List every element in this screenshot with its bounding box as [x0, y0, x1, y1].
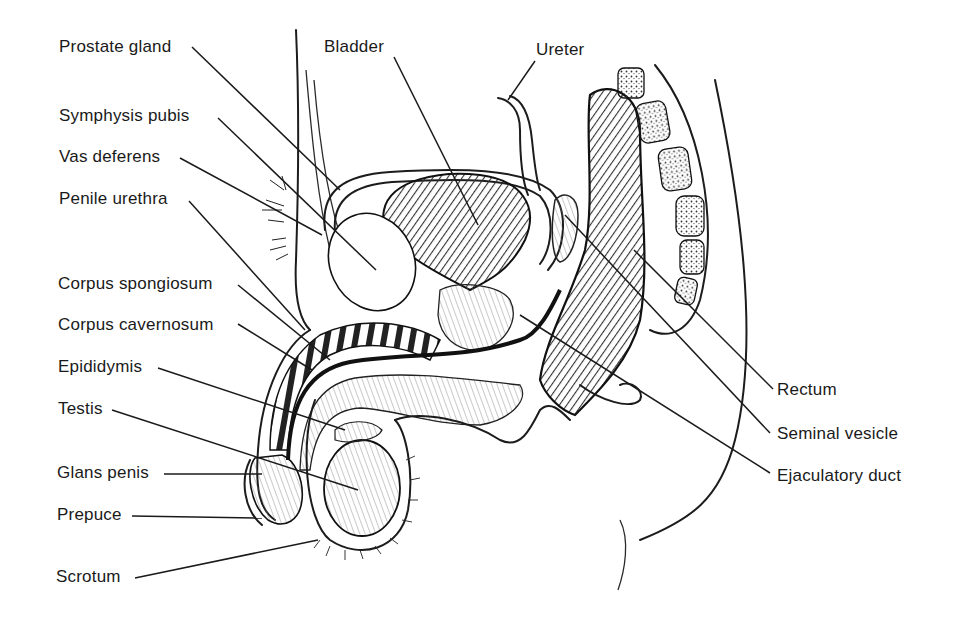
anatomy-drawing	[0, 0, 967, 617]
label-scrotum: Scrotum	[56, 567, 121, 587]
label-symphysis-pubis: Symphysis pubis	[59, 106, 190, 126]
epididymis	[335, 422, 382, 442]
label-vas-deferens: Vas deferens	[59, 147, 160, 167]
label-prepuce: Prepuce	[57, 505, 122, 525]
label-penile-urethra: Penile urethra	[59, 189, 168, 209]
label-epididymis: Epididymis	[58, 357, 142, 377]
seminal-vesicle	[552, 195, 578, 262]
label-testis: Testis	[58, 399, 103, 419]
label-seminal-vesicle: Seminal vesicle	[777, 424, 898, 444]
prostate-gland	[438, 285, 513, 350]
anatomy-figure: Prostate gland Symphysis pubis Vas defer…	[0, 0, 967, 617]
testis	[324, 440, 400, 536]
pubic-hair	[262, 176, 288, 260]
label-bladder: Bladder	[324, 37, 384, 57]
label-prostate-gland: Prostate gland	[59, 37, 171, 57]
label-corpus-spongiosum: Corpus spongiosum	[58, 274, 213, 294]
label-glans-penis: Glans penis	[57, 463, 149, 483]
label-ureter: Ureter	[536, 40, 584, 60]
label-rectum: Rectum	[777, 380, 837, 400]
label-corpus-cavernosum: Corpus cavernosum	[58, 315, 214, 335]
label-ejaculatory-duct: Ejaculatory duct	[777, 466, 901, 486]
glans-penis	[250, 455, 302, 524]
abdominal-wall-line	[296, 30, 310, 330]
